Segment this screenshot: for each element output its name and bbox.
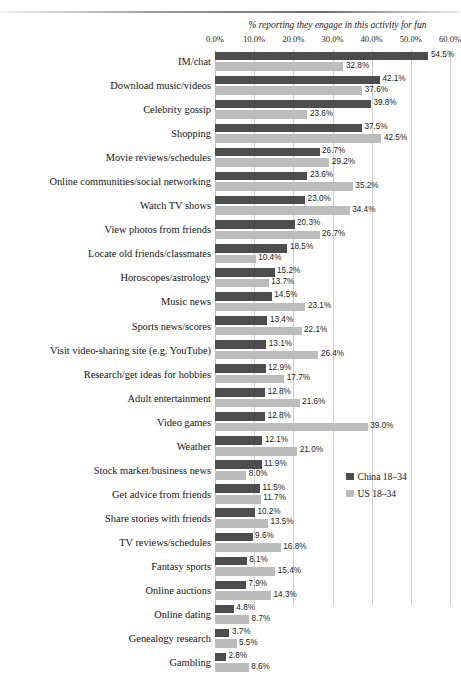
bar-row: 26.7%29.2% [215,146,450,170]
bar-us [215,206,350,215]
bar-row: 23.0%34.4% [215,194,450,218]
legend-swatch [346,490,354,498]
category-label: IM/chat [0,50,211,74]
category-label: Visit video-sharing site (e.g. YouTube) [0,339,211,363]
category-label: Download music/videos [0,74,211,98]
bar-row: 20.3%26.7% [215,218,450,242]
bar-china [215,268,275,277]
bar-row: 12.1%21.0% [215,435,450,459]
x-tick-label: 40.0% [361,34,383,44]
bar-value-label: 11.5% [263,483,286,492]
category-label: Horoscopes/astrology [0,266,211,290]
bar-value-label: 29.2% [332,157,355,166]
bar-value-label: 42.5% [384,133,407,142]
bar-value-label: 14.5% [274,290,297,299]
bar-us [215,399,300,408]
bar-row: 23.6%35.2% [215,170,450,194]
bar-rows: 54.5%32.8%42.1%37.6%39.8%23.6%37.5%42.5%… [215,50,450,675]
category-label: Genealogy research [0,627,211,651]
bar-row: 10.2%13.5% [215,507,450,531]
bar-value-label: 11.7% [263,493,286,502]
x-tick-label: 30.0% [321,34,343,44]
bar-us [215,182,353,191]
bar-us [215,62,343,71]
bar-value-label: 10.2% [257,507,280,516]
bar-china [215,533,253,542]
bar-value-label: 23.1% [308,301,331,310]
bar-china [215,100,371,109]
bar-value-label: 12.8% [268,411,291,420]
bar-china [215,629,229,638]
bar-us [215,543,281,552]
bar-us [215,663,249,672]
bar-china [215,436,262,445]
bar-china [215,124,362,133]
bar-row: 54.5%32.8% [215,50,450,74]
x-axis-ticks: 0.0%10.0%20.0%30.0%40.0%50.0%60.0% [215,34,450,48]
bar-china [215,76,380,85]
bar-value-label: 13.7% [271,277,294,286]
bar-china [215,460,262,469]
bar-row: 13.4%22.1% [215,315,450,339]
bar-china [215,412,265,421]
bar-china [215,196,305,205]
bar-value-label: 23.0% [308,194,331,203]
bar-china [215,148,320,157]
bar-value-label: 34.4% [352,205,375,214]
bar-value-label: 15.4% [278,566,301,575]
category-label: Online auctions [0,579,211,603]
bar-value-label: 8.6% [251,662,270,671]
bar-value-label: 12.9% [268,363,291,372]
legend-item: US 18–34 [346,485,456,502]
bar-value-label: 12.8% [268,387,291,396]
category-label: Online dating [0,603,211,627]
bar-value-label: 8.7% [252,614,271,623]
bar-row: 13.1%26.4% [215,339,450,363]
bar-china [215,340,266,349]
bar-china [215,605,234,614]
bar-value-label: 8.1% [249,555,268,564]
bar-value-label: 42.1% [382,74,405,83]
category-label: Watch TV shows [0,194,211,218]
legend-item: China 18–34 [346,468,456,485]
category-label: Sports news/scores [0,315,211,339]
bar-row: 3.7%5.5% [215,627,450,651]
bar-us [215,303,305,312]
category-label: Online communities/social networking [0,170,211,194]
category-label: Movie reviews/schedules [0,146,211,170]
bar-value-label: 7.9% [248,579,267,588]
bar-value-label: 23.6% [310,170,333,179]
legend-swatch [346,473,354,481]
bar-row: 12.8%21.6% [215,387,450,411]
bar-value-label: 11.9% [264,459,287,468]
bar-value-label: 32.8% [346,61,369,70]
bar-value-label: 10.4% [258,253,281,262]
bar-china [215,364,266,373]
bar-china [215,244,287,253]
bar-us [215,471,246,480]
bar-value-label: 4.8% [236,603,255,612]
bar-value-label: 9.6% [255,531,274,540]
bar-value-label: 20.3% [297,218,320,227]
category-label: Research/get ideas for hobbies [0,363,211,387]
bar-row: 18.5%10.4% [215,242,450,266]
bar-us [215,447,297,456]
bar-us [215,158,329,167]
category-label: Weather [0,435,211,459]
category-label: Video games [0,411,211,435]
bar-value-label: 14.3% [274,590,297,599]
bar-us [215,591,271,600]
bar-row: 7.9%14.3% [215,579,450,603]
bar-value-label: 13.5% [270,517,293,526]
bar-value-label: 21.0% [300,445,323,454]
bar-us [215,567,275,576]
bar-us [215,615,249,624]
x-tick-label: 0.0% [206,34,224,44]
bar-value-label: 2.8% [228,651,247,660]
bar-value-label: 37.5% [364,122,387,131]
legend-label: China 18–34 [358,471,407,482]
bar-value-label: 37.6% [365,85,388,94]
bar-china [215,172,307,181]
bar-china [215,316,267,325]
